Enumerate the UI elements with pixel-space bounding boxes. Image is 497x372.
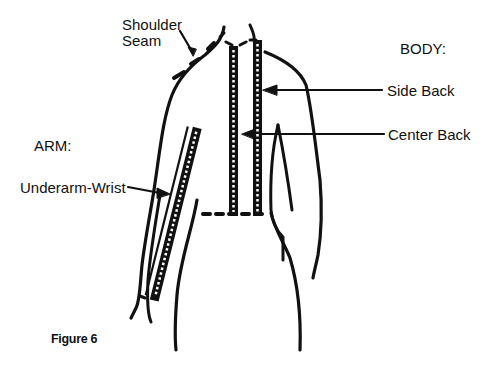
shoulder-seam-dash [220, 33, 224, 37]
shoulder-seam-dash [191, 59, 199, 64]
side-back-arrowhead [263, 85, 277, 95]
side-back-label: Side Back [387, 83, 455, 98]
lower-body-left-outline [175, 200, 197, 350]
left-wrist-tick [140, 296, 145, 298]
arm-section-heading: ARM: [34, 138, 72, 153]
shoulder-seam-label-line1: Shoulder [122, 17, 182, 32]
center-back-label: Center Back [388, 127, 471, 142]
shoulder-seam-label-line2: Seam [122, 33, 161, 48]
body-section-heading: BODY: [400, 41, 446, 56]
side-back-zipper [253, 40, 262, 216]
right-underarm-outline [278, 125, 292, 210]
lower-body-right-outline [271, 213, 300, 350]
diagram-canvas: Shoulder Seam BODY: Side Back Center Bac… [0, 0, 497, 372]
underarm-wrist-arrowhead [157, 188, 170, 198]
neck-dash [226, 42, 232, 45]
left-shoulder-arm-outline [131, 27, 224, 318]
right-neck-outline [250, 25, 254, 40]
shoulder-seam-arrowhead [188, 47, 196, 56]
figure-caption: Figure 6 [51, 332, 97, 346]
neck-dash [240, 42, 246, 45]
underarm-wrist-label: Underarm-Wrist [20, 180, 126, 195]
center-back-zipper [229, 46, 238, 216]
